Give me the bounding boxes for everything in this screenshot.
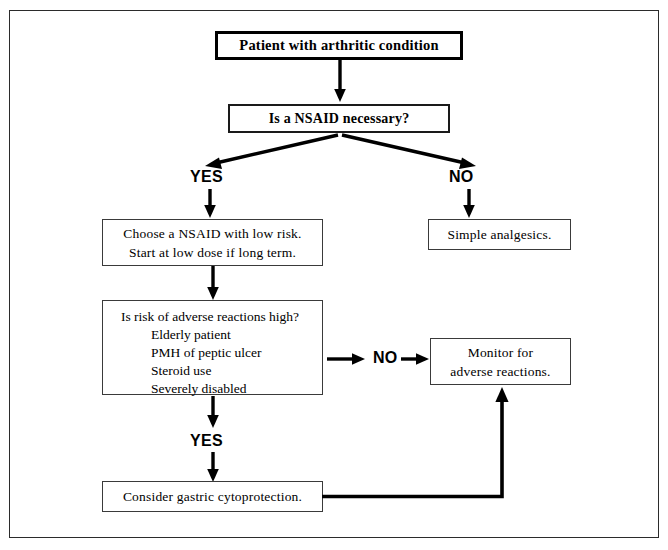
node-simple-analgesics: Simple analgesics.: [428, 219, 571, 250]
node-cytoprotection-label: Consider gastric cytoprotection.: [123, 487, 302, 506]
node-risk-item-severely-disabled: Severely disabled: [151, 380, 247, 398]
branch-label-no-top: NO: [449, 168, 474, 186]
node-consider-gastric-cytoprotection: Consider gastric cytoprotection.: [102, 481, 323, 512]
node-patient-label: Patient with arthritic condition: [239, 37, 438, 54]
node-risk-assessment: Is risk of adverse reactions high? Elder…: [102, 300, 323, 395]
node-risk-item-steroid-use: Steroid use: [151, 362, 211, 380]
node-choose-nsaid-line-1: Choose a NSAID with low risk.: [123, 224, 301, 243]
page-frame-border: [9, 10, 659, 538]
node-risk-assessment-heading: Is risk of adverse reactions high?: [121, 308, 299, 326]
node-is-nsaid-necessary: Is a NSAID necessary?: [228, 104, 450, 133]
node-risk-item-pmh-peptic-ulcer: PMH of peptic ulcer: [151, 344, 262, 362]
branch-label-yes-middle: YES: [190, 432, 223, 450]
node-nsaid-decision-label: Is a NSAID necessary?: [269, 111, 410, 127]
branch-label-yes-top: YES: [190, 168, 223, 186]
node-monitor-adverse-reactions: Monitor for adverse reactions.: [430, 338, 571, 385]
node-choose-nsaid-line-2: Start at low dose if long term.: [129, 243, 296, 262]
node-choose-nsaid: Choose a NSAID with low risk. Start at l…: [102, 219, 323, 266]
branch-label-no-middle: NO: [373, 349, 398, 367]
node-risk-item-elderly-patient: Elderly patient: [151, 326, 231, 344]
node-patient-with-arthritic-condition: Patient with arthritic condition: [215, 31, 463, 60]
node-monitor-line-1: Monitor for: [468, 343, 534, 362]
flowchart-canvas: Patient with arthritic condition Is a NS…: [0, 0, 668, 550]
node-simple-analgesics-label: Simple analgesics.: [447, 225, 551, 244]
node-monitor-line-2: adverse reactions.: [450, 362, 550, 381]
